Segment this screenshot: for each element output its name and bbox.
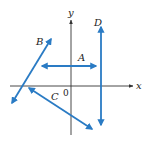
lines-group: ABCD — [12, 17, 102, 129]
line-c — [29, 88, 92, 129]
x-axis-label: x — [136, 80, 142, 91]
line-b-label: B — [35, 36, 43, 47]
coordinate-diagram: x y 0 ABCD — [0, 0, 148, 145]
line-d-label: D — [93, 17, 102, 28]
origin-label: 0 — [63, 88, 69, 98]
line-c-label: C — [51, 91, 59, 102]
line-a-label: A — [77, 52, 85, 63]
line-b — [12, 39, 51, 103]
y-axis-label: y — [67, 7, 74, 18]
